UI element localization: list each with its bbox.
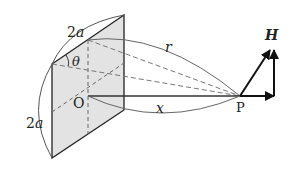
label-theta: θ <box>72 54 80 69</box>
label-left-2a: 2a <box>26 115 43 131</box>
label-p: P <box>236 100 245 115</box>
h-vector-arrow <box>240 50 270 96</box>
diagram-canvas: 2a θ r x O P H 2a <box>0 0 303 191</box>
arc-left-2a <box>39 64 53 158</box>
square-plate <box>52 15 124 158</box>
label-o: O <box>73 95 84 111</box>
label-x: x <box>156 100 164 116</box>
label-h: H <box>264 27 279 43</box>
label-top-2a: 2a <box>67 24 84 40</box>
